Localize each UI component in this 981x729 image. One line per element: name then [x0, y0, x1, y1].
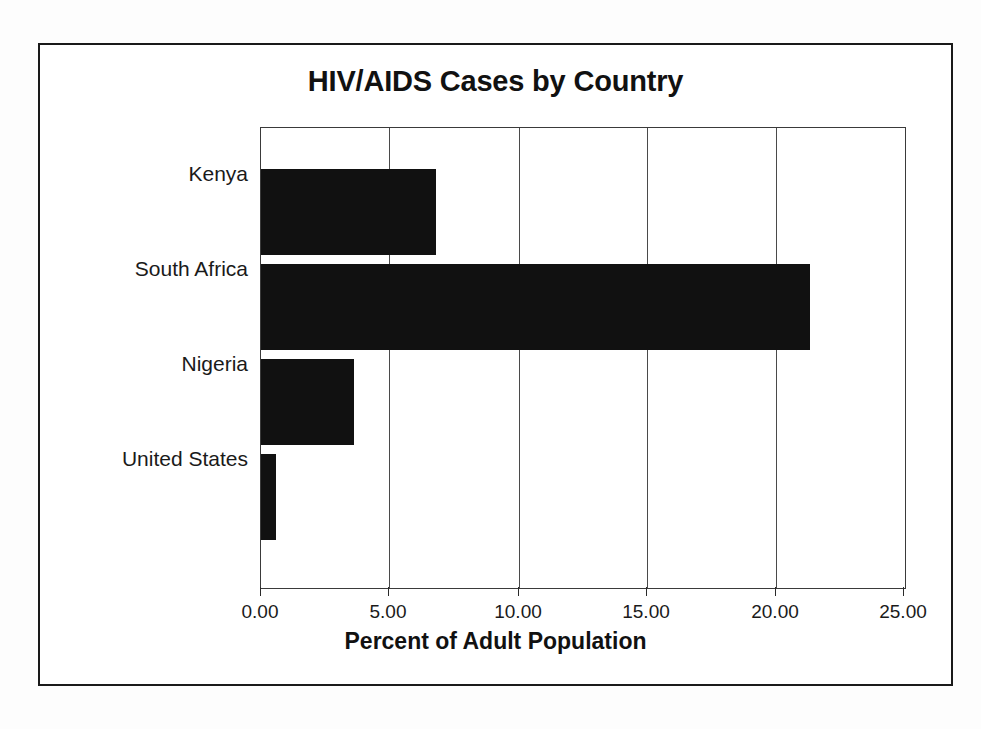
page-background: HIV/AIDS Cases by Country Kenya South Af…	[0, 0, 981, 729]
gridline-15	[647, 128, 648, 588]
bar-kenya	[261, 169, 436, 255]
category-label-kenya: Kenya	[188, 163, 248, 184]
tick-mark-15	[646, 587, 647, 596]
x-axis-title: Percent of Adult Population	[40, 628, 951, 655]
tick-mark-20	[775, 587, 776, 596]
tick-label-10: 10.00	[494, 601, 542, 623]
category-axis-labels: Kenya South Africa Nigeria United States	[40, 127, 248, 587]
tick-label-5: 5.00	[370, 601, 407, 623]
plot-area	[260, 127, 906, 589]
bar-nigeria	[261, 359, 354, 445]
bar-south-africa	[261, 264, 810, 350]
category-label-south-africa: South Africa	[135, 258, 248, 279]
gridline-20	[776, 128, 777, 588]
bar-united-states	[261, 454, 276, 540]
tick-label-0: 0.00	[242, 601, 279, 623]
gridline-10	[519, 128, 520, 588]
chart-title: HIV/AIDS Cases by Country	[40, 65, 951, 98]
tick-mark-10	[518, 587, 519, 596]
tick-label-25: 25.00	[879, 601, 927, 623]
figure-frame: HIV/AIDS Cases by Country Kenya South Af…	[38, 43, 953, 686]
category-label-united-states: United States	[122, 448, 248, 469]
tick-mark-5	[388, 587, 389, 596]
tick-mark-0	[260, 587, 261, 596]
tick-label-20: 20.00	[751, 601, 799, 623]
tick-label-15: 15.00	[622, 601, 670, 623]
category-label-nigeria: Nigeria	[181, 353, 248, 374]
tick-mark-25	[903, 587, 904, 596]
